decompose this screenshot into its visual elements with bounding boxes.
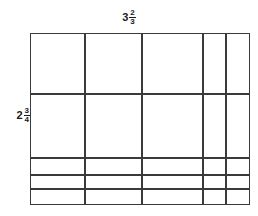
grid-container	[30, 33, 250, 205]
width-fraction: 2 3	[129, 9, 135, 27]
height-whole-number: 2	[16, 110, 22, 121]
width-label: 3 2 3	[0, 9, 258, 27]
grid-line-group	[30, 33, 250, 205]
height-label: 2 3 4	[4, 107, 30, 125]
width-mixed-number: 3 2 3	[122, 9, 136, 27]
height-mixed-number: 2 3 4	[16, 107, 30, 125]
width-fraction-numerator: 2	[129, 9, 135, 17]
area-model-diagram: 3 2 3 2 3 4	[0, 0, 258, 216]
grid-lines	[30, 33, 250, 205]
width-fraction-denominator: 3	[129, 17, 135, 26]
width-whole-number: 3	[122, 12, 128, 23]
